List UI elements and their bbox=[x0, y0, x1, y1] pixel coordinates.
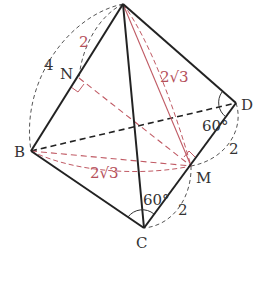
label-BM-length: 2√3 bbox=[90, 164, 119, 182]
edge-AB bbox=[31, 4, 123, 151]
label-angle-D: 60° bbox=[202, 117, 229, 135]
edge-AC bbox=[123, 4, 144, 228]
label-B: B bbox=[14, 143, 25, 161]
label-MC-length: 2 bbox=[178, 201, 188, 219]
label-C: C bbox=[136, 234, 147, 252]
label-AM-length: 2√3 bbox=[160, 68, 189, 86]
edge-BC bbox=[31, 151, 144, 228]
tetrahedron-diagram: B C D M N 4 2 2√3 2√3 2 2 60° 60° bbox=[0, 0, 269, 293]
right-angle-M bbox=[184, 151, 196, 158]
angle-arc-C bbox=[128, 210, 154, 217]
label-D: D bbox=[241, 96, 253, 114]
label-angle-C: 60° bbox=[143, 191, 170, 209]
label-M: M bbox=[196, 169, 211, 187]
angle-arc-D bbox=[219, 92, 226, 117]
label-N: N bbox=[60, 65, 73, 83]
edge-AD bbox=[123, 4, 236, 103]
label-AB-length: 4 bbox=[44, 56, 54, 74]
label-AN-length: 2 bbox=[79, 33, 89, 51]
label-DM-length: 2 bbox=[229, 140, 239, 158]
